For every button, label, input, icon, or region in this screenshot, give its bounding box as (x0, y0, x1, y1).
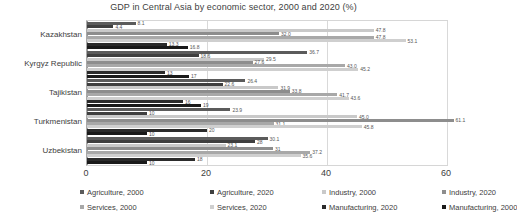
legend-row-1: Agriculture, 2000Agriculture, 2020Indust… (60, 188, 460, 202)
bar (87, 132, 147, 135)
bar (87, 161, 147, 164)
bar-group: 26.422.631.933.841.743.61619 (87, 79, 447, 108)
bar-value-label: 30.1 (270, 136, 280, 141)
y-axis-label-uzbekistan: Uzbekistan (42, 145, 82, 154)
bar-group: 36.718.629.527.643.045.21317 (87, 50, 447, 79)
y-axis-label-turkmenistan: Turkmenistan (34, 116, 82, 125)
bar-value-label: 45.2 (360, 67, 370, 72)
bar-group: 30.12823.13137.235.61810 (87, 136, 447, 165)
legend-swatch-icon (80, 190, 84, 194)
legend-label: Industry, 2020 (449, 188, 496, 197)
legend-swatch-icon (442, 190, 446, 194)
x-tick-40: 40 (321, 168, 331, 178)
bar (87, 46, 188, 49)
y-axis-label-kyrgyz-republic: Kyrgyz Republic (24, 59, 82, 68)
bar-value-label: 18 (197, 157, 203, 162)
chart-legend: Agriculture, 2000Agriculture, 2020Indust… (60, 188, 460, 220)
legend-item[interactable]: Services, 2020 (210, 203, 267, 212)
legend-item[interactable]: Industry, 2020 (442, 188, 496, 197)
legend-label: Services, 2000 (87, 203, 137, 212)
legend-swatch-icon (210, 190, 214, 194)
legend-item[interactable]: Agriculture, 2000 (80, 188, 144, 197)
gridline-60 (447, 21, 448, 165)
legend-label: Services, 2020 (217, 203, 267, 212)
bar (87, 104, 201, 107)
legend-label: Industry, 2000 (329, 188, 376, 197)
legend-swatch-icon (322, 205, 326, 209)
y-axis-category-labels: KazakhstanKyrgyz RepublicTajikistanTurkm… (0, 20, 82, 166)
legend-swatch-icon (322, 190, 326, 194)
legend-label: Manufacturing, 2000 (449, 203, 517, 212)
bar (87, 75, 189, 78)
bar-value-label: 8.1 (138, 21, 145, 26)
legend-label: Agriculture, 2020 (217, 188, 274, 197)
legend-item[interactable]: Manufacturing, 2020 (322, 203, 397, 212)
x-tick-20: 20 (201, 168, 211, 178)
bar-group: 8.14.447.832.047.853.113.316.8 (87, 21, 447, 50)
legend-label: Agriculture, 2000 (87, 188, 144, 197)
chart-title: GDP in Central Asia by economic sector, … (0, 2, 467, 12)
x-axis-tick-labels: 0204060 (86, 168, 448, 182)
y-axis-label-kazakhstan: Kazakhstan (40, 30, 82, 39)
legend-row-2: Services, 2000Services, 2020Manufacturin… (60, 203, 460, 217)
legend-item[interactable]: Industry, 2000 (322, 188, 376, 197)
bar-value-label: 53.1 (408, 38, 418, 43)
bar-group: 23.91045.061.131.145.82010 (87, 107, 447, 136)
y-axis-label-tajikistan: Tajikistan (49, 88, 82, 97)
legend-label: Manufacturing, 2020 (329, 203, 397, 212)
bar-value-label: 20 (209, 128, 215, 133)
legend-item[interactable]: Agriculture, 2020 (210, 188, 274, 197)
bar-value-label: 28 (257, 139, 263, 144)
bar-value-label: 23.9 (232, 107, 242, 112)
bar-value-label: 37.2 (312, 150, 322, 155)
bar-value-label: 43.6 (351, 96, 361, 101)
bar-value-label: 36.7 (309, 50, 319, 55)
bar-value-label: 10 (149, 160, 155, 165)
legend-item[interactable]: Services, 2000 (80, 203, 137, 212)
legend-swatch-icon (80, 205, 84, 209)
legend-swatch-icon (442, 205, 446, 209)
legend-swatch-icon (210, 205, 214, 209)
bar-value-label: 35.6 (303, 153, 313, 158)
plot-area: 8.14.447.832.047.853.113.316.836.718.629… (86, 20, 448, 166)
bar-value-label: 61.1 (456, 118, 466, 123)
bar-value-label: 29.5 (266, 57, 276, 62)
bar-value-label: 26.4 (247, 78, 257, 83)
legend-item[interactable]: Manufacturing, 2000 (442, 203, 517, 212)
x-tick-0: 0 (83, 168, 88, 178)
bar-value-label: 45.8 (364, 124, 374, 129)
bar-value-label: 47.8 (376, 28, 386, 33)
x-tick-60: 60 (441, 168, 451, 178)
